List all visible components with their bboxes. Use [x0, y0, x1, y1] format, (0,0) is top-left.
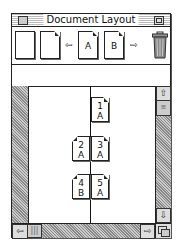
horizontal-scroll-thumb[interactable]: ||| — [27, 224, 42, 238]
resize-box[interactable] — [155, 223, 171, 238]
master-b-label: B — [111, 41, 117, 51]
vertical-scrollbar[interactable]: ⇧ ≡ ⇩ — [155, 86, 171, 223]
page-master: A — [73, 150, 89, 160]
master-page-b-icon[interactable]: B — [104, 31, 124, 59]
blank-page-icon[interactable] — [15, 31, 35, 59]
toolbar: ⇦ A B ⇨ — [12, 26, 170, 65]
scroll-right-button[interactable]: ⇨ — [140, 224, 155, 239]
page-4[interactable]: 4 B — [72, 174, 90, 199]
scroll-up-button[interactable]: ⇧ — [156, 86, 171, 101]
vertical-scroll-thumb[interactable]: ≡ — [156, 100, 171, 116]
master-page-a-icon[interactable]: A — [78, 31, 98, 59]
page-number: 3 — [92, 140, 108, 150]
window-title: Document Layout — [44, 14, 139, 26]
page-1[interactable]: 1 A — [91, 97, 109, 122]
page-2[interactable]: 2 A — [72, 136, 90, 161]
close-box[interactable] — [18, 16, 28, 25]
page-master: A — [92, 111, 108, 121]
page-number: 1 — [92, 101, 108, 111]
arrow-up-icon: ⇧ — [160, 88, 168, 98]
page-number: 5 — [92, 178, 108, 188]
arrow-down-icon: ⇩ — [160, 210, 168, 220]
page-number: 2 — [73, 140, 89, 150]
arrow-right-icon: ⇨ — [144, 226, 152, 236]
scroll-left-button[interactable]: ⇦ — [12, 224, 28, 239]
arrow-left-icon[interactable]: ⇦ — [65, 40, 73, 50]
page-5[interactable]: 5 A — [91, 174, 109, 199]
page-master: B — [73, 188, 89, 198]
horizontal-scrollbar[interactable]: ⇦ ||| ⇨ — [12, 223, 155, 238]
master-pages-strip — [12, 65, 170, 87]
zoom-box[interactable] — [154, 16, 164, 25]
page-3[interactable]: 3 A — [91, 136, 109, 161]
page-layout-area: 1 A 2 A 3 A 4 B 5 A — [12, 86, 155, 223]
document-layout-window: Document Layout ⇦ A B ⇨ 1 A 2 A — [11, 13, 171, 238]
page-number: 4 — [73, 178, 89, 188]
trash-icon[interactable] — [152, 31, 168, 59]
master-a-label: A — [85, 41, 91, 51]
page-master: A — [92, 188, 108, 198]
left-pattern-strip — [12, 86, 29, 223]
scroll-down-button[interactable]: ⇩ — [156, 208, 171, 223]
blank-facing-page-icon[interactable] — [40, 31, 60, 59]
arrow-left-icon: ⇦ — [16, 226, 24, 236]
page-master: A — [92, 150, 108, 160]
arrow-right-icon[interactable]: ⇨ — [130, 40, 138, 50]
